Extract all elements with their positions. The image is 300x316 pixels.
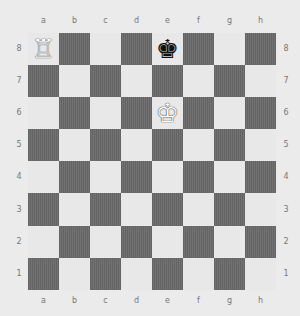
square-b4[interactable] (59, 161, 90, 193)
square-a2[interactable] (28, 226, 59, 258)
square-g6[interactable] (214, 97, 245, 129)
square-c6[interactable] (90, 97, 121, 129)
square-b3[interactable] (59, 193, 90, 225)
square-b8[interactable] (59, 33, 90, 65)
rank-label-right: 8 (279, 44, 293, 53)
file-label-top: c (90, 16, 121, 25)
rank-label-left: 7 (12, 76, 26, 85)
square-g8[interactable] (214, 33, 245, 65)
square-h1[interactable] (245, 258, 276, 290)
square-f4[interactable] (183, 161, 214, 193)
square-f3[interactable] (183, 193, 214, 225)
square-a6[interactable] (28, 97, 59, 129)
rank-label-left: 1 (12, 269, 26, 278)
rank-label-left: 3 (12, 205, 26, 214)
square-g3[interactable] (214, 193, 245, 225)
rank-label-right: 6 (279, 108, 293, 117)
square-f5[interactable] (183, 129, 214, 161)
file-label-bottom: g (214, 296, 245, 305)
square-c5[interactable] (90, 129, 121, 161)
square-b1[interactable] (59, 258, 90, 290)
square-g5[interactable] (214, 129, 245, 161)
square-g1[interactable] (214, 258, 245, 290)
square-c2[interactable] (90, 226, 121, 258)
square-f6[interactable] (183, 97, 214, 129)
file-label-top: a (28, 16, 59, 25)
square-c4[interactable] (90, 161, 121, 193)
file-label-bottom: a (28, 296, 59, 305)
rank-label-left: 4 (12, 172, 26, 181)
square-e8[interactable]: ♚ (152, 33, 183, 65)
square-h6[interactable] (245, 97, 276, 129)
square-d8[interactable] (121, 33, 152, 65)
file-label-bottom: d (121, 296, 152, 305)
square-g7[interactable] (214, 65, 245, 97)
rank-label-right: 1 (279, 269, 293, 278)
square-d3[interactable] (121, 193, 152, 225)
rank-label-left: 6 (12, 108, 26, 117)
square-d5[interactable] (121, 129, 152, 161)
square-c1[interactable] (90, 258, 121, 290)
file-label-bottom: e (152, 296, 183, 305)
file-label-bottom: h (245, 296, 276, 305)
square-h3[interactable] (245, 193, 276, 225)
file-label-top: e (152, 16, 183, 25)
rank-label-left: 5 (12, 140, 26, 149)
square-a5[interactable] (28, 129, 59, 161)
square-h2[interactable] (245, 226, 276, 258)
square-c7[interactable] (90, 65, 121, 97)
square-d4[interactable] (121, 161, 152, 193)
square-c8[interactable] (90, 33, 121, 65)
square-b6[interactable] (59, 97, 90, 129)
square-b2[interactable] (59, 226, 90, 258)
file-label-bottom: c (90, 296, 121, 305)
file-label-top: g (214, 16, 245, 25)
square-g2[interactable] (214, 226, 245, 258)
square-c3[interactable] (90, 193, 121, 225)
square-e1[interactable] (152, 258, 183, 290)
square-e4[interactable] (152, 161, 183, 193)
file-label-top: f (183, 16, 214, 25)
square-a1[interactable] (28, 258, 59, 290)
square-h7[interactable] (245, 65, 276, 97)
square-a7[interactable] (28, 65, 59, 97)
file-label-top: d (121, 16, 152, 25)
rank-label-right: 4 (279, 172, 293, 181)
square-f8[interactable] (183, 33, 214, 65)
square-h8[interactable] (245, 33, 276, 65)
square-d6[interactable] (121, 97, 152, 129)
rank-label-left: 2 (12, 237, 26, 246)
square-e6[interactable]: ♔ (152, 97, 183, 129)
file-label-bottom: b (59, 296, 90, 305)
rank-label-right: 2 (279, 237, 293, 246)
square-f7[interactable] (183, 65, 214, 97)
black-king-icon[interactable]: ♚ (156, 36, 179, 62)
file-label-top: h (245, 16, 276, 25)
square-e5[interactable] (152, 129, 183, 161)
square-e7[interactable] (152, 65, 183, 97)
square-d7[interactable] (121, 65, 152, 97)
rank-label-right: 3 (279, 205, 293, 214)
square-a4[interactable] (28, 161, 59, 193)
square-g4[interactable] (214, 161, 245, 193)
square-e3[interactable] (152, 193, 183, 225)
rank-label-left: 8 (12, 44, 26, 53)
chess-board: ♖♚♔ (28, 33, 276, 290)
square-f2[interactable] (183, 226, 214, 258)
square-a3[interactable] (28, 193, 59, 225)
white-king-icon[interactable]: ♔ (156, 100, 179, 126)
square-h4[interactable] (245, 161, 276, 193)
square-a8[interactable]: ♖ (28, 33, 59, 65)
rank-label-right: 7 (279, 76, 293, 85)
square-e2[interactable] (152, 226, 183, 258)
file-label-top: b (59, 16, 90, 25)
square-b5[interactable] (59, 129, 90, 161)
square-d2[interactable] (121, 226, 152, 258)
square-b7[interactable] (59, 65, 90, 97)
white-rook-icon[interactable]: ♖ (32, 36, 55, 62)
square-f1[interactable] (183, 258, 214, 290)
square-d1[interactable] (121, 258, 152, 290)
rank-label-right: 5 (279, 140, 293, 149)
square-h5[interactable] (245, 129, 276, 161)
file-label-bottom: f (183, 296, 214, 305)
